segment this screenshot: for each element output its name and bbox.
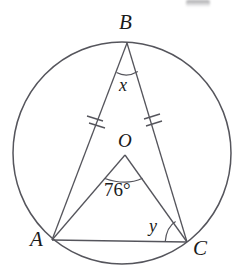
geometry-figure: B A C O x y 76° <box>0 0 240 276</box>
angle-label-central: 76° <box>104 180 131 199</box>
point-label-a: A <box>30 229 43 250</box>
segment-ac <box>52 240 187 242</box>
angle-label-x: x <box>119 76 127 94</box>
point-label-b: B <box>119 12 132 33</box>
point-label-c: C <box>193 238 207 259</box>
angle-label-y: y <box>149 217 157 235</box>
segment-ba <box>52 43 127 240</box>
point-label-o: O <box>118 131 132 150</box>
scan-artifact <box>186 0 210 7</box>
tick-marks-bc <box>144 114 162 126</box>
